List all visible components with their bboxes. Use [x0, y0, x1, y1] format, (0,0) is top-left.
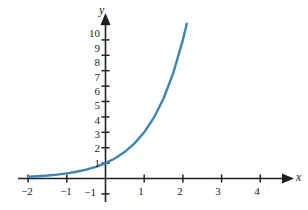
x-tick-label: 4	[243, 186, 271, 197]
x-axis-label: x	[296, 171, 301, 183]
y-tick-label: 4	[74, 115, 100, 126]
x-tick-label: −2	[13, 186, 41, 197]
x-axis-arrow-icon	[282, 174, 294, 184]
x-tick-label: 3	[204, 186, 232, 197]
y-tick-label: 5	[74, 100, 100, 111]
y-axis-label: y	[99, 4, 104, 16]
y-tick-label: 10	[74, 28, 100, 39]
exponential-function-graph: −2−11234 10987654321−1 y x	[0, 0, 308, 210]
y-tick-label: 9	[74, 43, 100, 54]
y-tick-label: 3	[74, 129, 100, 140]
x-tick-label: 2	[166, 186, 194, 197]
plot-canvas	[0, 0, 308, 210]
y-tick-label: 8	[74, 57, 100, 68]
y-tick-label: 6	[74, 86, 100, 97]
y-tick-label: 7	[74, 72, 100, 83]
y-tick-label: −1	[70, 187, 96, 198]
x-tick-label: 1	[127, 186, 155, 197]
y-tick-label: 2	[74, 143, 100, 154]
exponential-curve	[28, 24, 187, 177]
y-tick-label: 1	[74, 158, 100, 169]
